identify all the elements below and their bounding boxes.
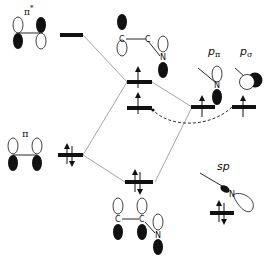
level-pi-star [60,33,83,37]
dashed-interaction-arrow [153,107,232,123]
label-p-sigma: pσ [240,45,252,59]
n-sp-orbital-icon [200,173,253,212]
atom-c2-top: C [145,35,151,44]
up-arrow-icon [135,92,141,114]
atom-n-sp: N [229,190,235,199]
label-p-pi-main: p [208,45,215,58]
pi-star-orbital-icon [13,17,46,49]
label-pi-star: π* [24,4,33,17]
atom-c1-top: C [119,35,125,44]
level-mixed-middle [127,106,152,110]
label-p-sigma-subscript: σ [247,50,252,59]
level-n-p-pi [191,105,215,109]
atom-n-bottom: N [155,231,161,240]
n-p-sigma-orbital-icon [235,68,263,90]
label-sp-text: sp [217,160,230,173]
atom-c1-bottom: C [115,215,121,224]
label-p-pi-subscript: π [215,50,220,59]
level-mixed-upper [127,80,152,84]
ccn-lower-orbital-icon [113,198,163,255]
label-p-sigma-main: p [240,45,247,58]
label-pi: π [22,128,29,139]
label-sp: sp [217,160,230,173]
level-mixed-lower [125,180,153,184]
label-p-pi: pπ [208,45,220,59]
up-arrow-icon [135,66,141,88]
atom-n-top: N [160,53,166,62]
atom-n-ppi: N [214,81,220,90]
atom-c2-bottom: C [139,215,145,224]
label-pi-symbol: π [22,128,29,139]
level-n-sp [210,211,234,215]
label-pi-star-superscript: * [30,4,34,12]
level-n-p-sigma [232,105,256,109]
level-pi [58,153,83,157]
ccn-upper-orbital-icon [117,14,168,78]
mo-diagram: C C N C C N [0,0,268,258]
pi-orbital-icon [8,138,42,171]
